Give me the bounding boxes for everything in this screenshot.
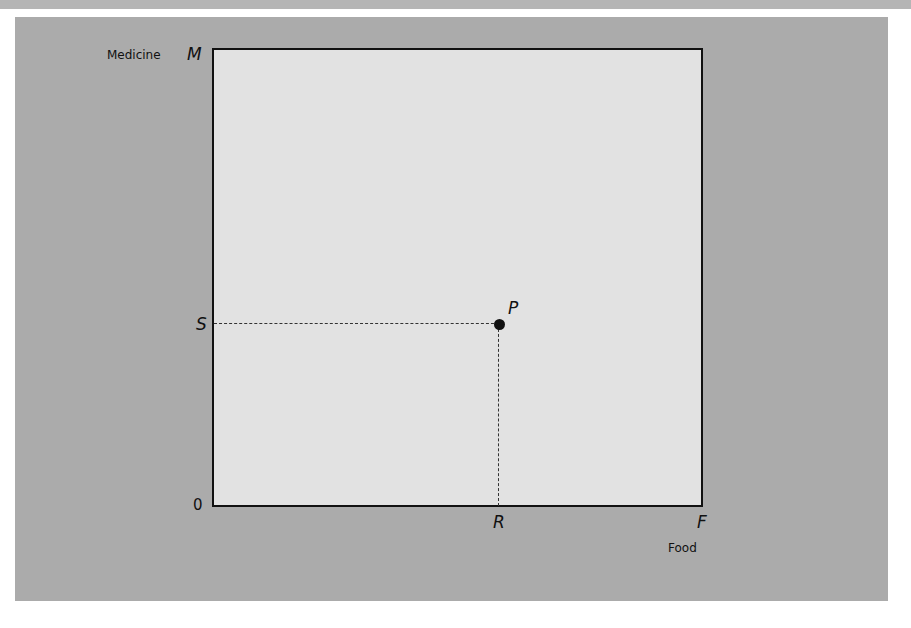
- x-axis-point-label: R: [493, 512, 505, 532]
- origin-label: 0: [193, 496, 203, 514]
- plot-area: [212, 48, 703, 507]
- y-axis-max-label: M: [187, 44, 202, 64]
- dashed-line-r-to-p: [498, 324, 499, 506]
- y-axis-point-label: S: [196, 314, 207, 334]
- x-axis-max-label: F: [697, 512, 707, 532]
- point-p-marker: [494, 319, 505, 330]
- dashed-line-s-to-p: [214, 323, 499, 324]
- top-strip: [0, 0, 911, 9]
- y-axis-label: Medicine: [107, 48, 161, 62]
- point-p-label: P: [508, 298, 518, 318]
- x-axis-label: Food: [668, 541, 697, 555]
